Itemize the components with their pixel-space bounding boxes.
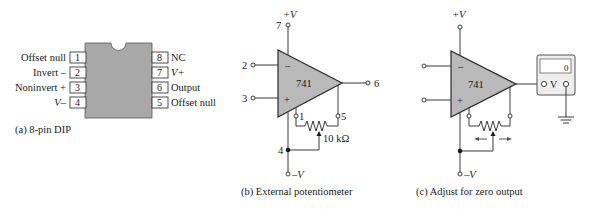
- pin-number-2: 2: [75, 67, 80, 78]
- terminal-vplus-c: [458, 25, 462, 29]
- terminal-null5-c: [508, 114, 512, 118]
- pin1-label-b: 1: [299, 111, 304, 122]
- pot-wiper-arrow-c: [491, 131, 496, 136]
- supply-neg-label-b: –V: [291, 169, 305, 180]
- potentiometer-c: [469, 118, 510, 131]
- pin-number-3: 3: [75, 82, 80, 93]
- pin7-label-b: 7: [276, 20, 281, 31]
- caption-panel-a: (a) 8-pin DIP: [15, 124, 71, 136]
- supply-pos-label-b: +V: [283, 9, 298, 20]
- pin5-label-b: 5: [341, 111, 346, 122]
- pot-value-label-b: 10 kΩ: [323, 133, 349, 144]
- pin4-label-b: 4: [278, 145, 284, 156]
- voltmeter-terminal-neg: [563, 81, 568, 86]
- panel-b-external-pot: +V 7 2 3 – + 741 6 1 5 10 kΩ: [241, 9, 379, 198]
- terminal-pin2-b: [251, 63, 255, 67]
- pin-label-nc: NC: [171, 52, 186, 63]
- caption-panel-c: (c) Adjust for zero output: [416, 186, 523, 198]
- pin-number-1: 1: [75, 52, 80, 63]
- terminal-pin6-b: [366, 81, 370, 85]
- adjust-left-arrow-icon: [474, 137, 487, 141]
- panel-c-zero-adjust: +V – + 741 0 V: [416, 9, 575, 198]
- pin-label-output: Output: [171, 82, 200, 93]
- junction-dot-c: [458, 149, 463, 154]
- pin-label-noninvert: Noninvert +: [15, 82, 66, 93]
- terminal-vminus-b: [286, 172, 290, 176]
- terminal-pin3-b: [251, 96, 255, 100]
- pin-number-5: 5: [157, 97, 162, 108]
- terminal-pin1-b: [294, 114, 298, 118]
- terminal-vminus-c: [458, 172, 462, 176]
- terminal-noninv-input-c: [422, 98, 426, 102]
- ground-icon: [558, 117, 574, 123]
- pin-number-7: 7: [157, 67, 162, 78]
- noninverting-sign-b: +: [284, 94, 290, 105]
- terminal-inv-input-c: [422, 64, 426, 68]
- opamp-label-c: 741: [468, 79, 484, 90]
- terminal-pin7-b: [286, 23, 290, 27]
- pin-label-offset-null-left: Offset null: [21, 52, 66, 63]
- pin3-label-b: 3: [242, 93, 247, 104]
- pot-wiper-arrow-b: [317, 131, 322, 136]
- pin-label-offset-null-right: Offset null: [171, 97, 216, 108]
- noninverting-sign-c: +: [457, 95, 463, 106]
- inverting-sign-c: –: [457, 61, 464, 72]
- voltmeter-label: V: [550, 79, 558, 90]
- pin2-label-b: 2: [242, 60, 247, 71]
- pin-label-invert: Invert –: [33, 67, 67, 78]
- op-amp-offset-null-figure: 1 2 3 4 Offset null Invert – Noninvert +…: [0, 0, 589, 209]
- panel-a-dip-package: 1 2 3 4 Offset null Invert – Noninvert +…: [15, 43, 216, 136]
- voltmeter: 0 V: [537, 55, 575, 95]
- dip-chip-body: [85, 43, 152, 118]
- pin-label-v-plus: V+: [171, 67, 185, 78]
- pin6-label-b: 6: [374, 78, 379, 89]
- voltmeter-terminal-pos: [541, 81, 546, 86]
- adjust-right-arrow-icon: [499, 137, 512, 141]
- terminal-null1-c: [467, 114, 471, 118]
- pin-number-8: 8: [157, 52, 162, 63]
- pin-label-v-minus: V–: [54, 97, 66, 108]
- pin-number-4: 4: [75, 97, 80, 108]
- junction-dot-b: [286, 148, 291, 153]
- terminal-pin5-b: [336, 114, 340, 118]
- inverting-sign-b: –: [284, 60, 291, 71]
- supply-pos-label-c: +V: [452, 9, 467, 20]
- pin-number-6: 6: [157, 82, 162, 93]
- supply-neg-label-c: –V: [463, 169, 477, 180]
- caption-panel-b: (b) External potentiometer: [241, 186, 353, 198]
- voltmeter-reading: 0: [564, 63, 569, 73]
- opamp-label-b: 741: [296, 78, 312, 89]
